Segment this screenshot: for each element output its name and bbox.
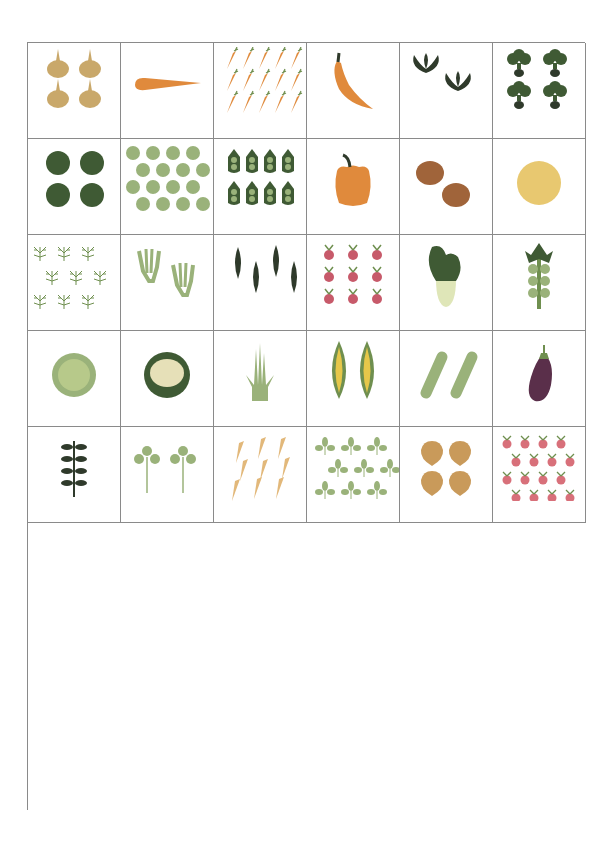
plant-cell-carrots — [214, 43, 307, 139]
beets-icon — [307, 239, 399, 309]
bok-choi-icon — [400, 239, 492, 309]
plant-label — [214, 505, 306, 516]
plant-label — [493, 217, 585, 228]
cabbage-icon — [28, 335, 120, 405]
plant-label — [307, 313, 399, 324]
plant-label — [400, 217, 492, 228]
chives-icon — [214, 335, 306, 405]
plant-cell-peas — [214, 139, 307, 235]
plant-label — [307, 121, 399, 132]
plant-label — [28, 121, 120, 132]
plant-label — [400, 505, 492, 516]
plant-cell-cauliflower — [121, 331, 214, 427]
carrots-icon — [214, 47, 306, 117]
plant-label — [214, 121, 306, 132]
okra-icon — [121, 47, 213, 117]
plant-cell-head-lettuce — [28, 139, 121, 235]
plant-label — [493, 409, 585, 420]
plant-cell-parsnips — [214, 427, 307, 523]
plant-label — [493, 313, 585, 324]
plant-cell-cilantro — [307, 427, 400, 523]
plant-label — [28, 409, 120, 420]
plant-cell-melons — [493, 139, 586, 235]
plant-cell-beets — [307, 235, 400, 331]
plant-label — [214, 313, 306, 324]
plant-cell-corn — [307, 331, 400, 427]
plant-label — [214, 409, 306, 420]
cauliflower-icon — [121, 335, 213, 405]
peas-icon — [214, 143, 306, 213]
plant-cell-potatoes — [400, 139, 493, 235]
plant-cell-bok-choi — [400, 235, 493, 331]
potatoes-icon — [400, 143, 492, 213]
plant-cell-dill — [28, 235, 121, 331]
melon-icon — [493, 143, 585, 213]
plant-cell-radishes — [493, 427, 586, 523]
garlic-icon — [28, 47, 120, 117]
plant-cell-kohlrabi — [493, 43, 586, 139]
oregano-icon — [28, 431, 120, 501]
plant-cell-kale — [400, 43, 493, 139]
plant-label — [28, 505, 120, 516]
plant-cell-leaf-lettuce — [121, 139, 214, 235]
plant-label — [121, 217, 213, 228]
plant-cell-cabbage — [28, 331, 121, 427]
dill-icon — [28, 239, 120, 309]
plant-cell-brussels-sprouts — [493, 235, 586, 331]
plant-cell-eggplant — [493, 331, 586, 427]
plant-cell-green-beans — [214, 235, 307, 331]
planting-grid — [27, 42, 585, 810]
corn-icon — [307, 335, 399, 405]
kohlrabi-icon — [493, 47, 585, 117]
plant-label — [493, 121, 585, 132]
plant-cell-fennel — [121, 235, 214, 331]
plant-cell-chives — [214, 331, 307, 427]
plant-label — [121, 505, 213, 516]
plant-label — [307, 505, 399, 516]
rutabagas-icon — [400, 431, 492, 501]
plant-cell-parsley — [121, 427, 214, 523]
plant-label — [28, 313, 120, 324]
hot-pepper-icon — [307, 47, 399, 117]
radishes-icon — [493, 431, 585, 501]
plant-label — [400, 409, 492, 420]
leaf-lettuce-icon — [121, 143, 213, 213]
plant-label — [307, 217, 399, 228]
plant-label — [28, 217, 120, 228]
plant-label — [400, 121, 492, 132]
plant-label — [493, 505, 585, 516]
plant-cell-oregano — [28, 427, 121, 523]
plant-cell-bell-peppers — [307, 139, 400, 235]
green-beans-icon — [214, 239, 306, 309]
plant-cell-rutabagas — [400, 427, 493, 523]
cucumbers-icon — [400, 335, 492, 405]
plant-label — [400, 313, 492, 324]
plant-label — [121, 121, 213, 132]
cilantro-icon — [307, 431, 399, 501]
head-lettuce-icon — [28, 143, 120, 213]
kale-icon — [400, 47, 492, 117]
parsley-icon — [121, 431, 213, 501]
plant-label — [307, 409, 399, 420]
plant-cell-garlic — [28, 43, 121, 139]
parsnips-icon — [214, 431, 306, 501]
bell-pepper-icon — [307, 143, 399, 213]
plant-cell-cucumbers — [400, 331, 493, 427]
fennel-icon — [121, 239, 213, 309]
plant-label — [121, 313, 213, 324]
plant-cell-hot-peppers — [307, 43, 400, 139]
eggplant-icon — [493, 335, 585, 405]
brussels-sprouts-icon — [493, 239, 585, 309]
plant-label — [214, 217, 306, 228]
plant-cell-okra — [121, 43, 214, 139]
plant-label — [121, 409, 213, 420]
